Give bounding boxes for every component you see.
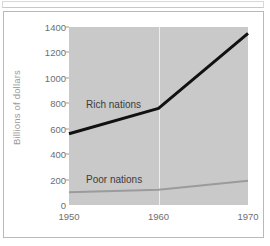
line-chart: Billions of dollars 1400 1200 1000 800 6…: [0, 0, 270, 246]
x-tick-label: 1960: [148, 211, 169, 222]
poor-nations-label: Poor nations: [86, 174, 142, 185]
x-tick-label: 1970: [237, 211, 258, 222]
rich-nations-line: [69, 33, 248, 134]
series-lines: [0, 0, 270, 246]
x-tick-label: 1950: [58, 211, 79, 222]
rich-nations-label: Rich nations: [86, 99, 141, 110]
